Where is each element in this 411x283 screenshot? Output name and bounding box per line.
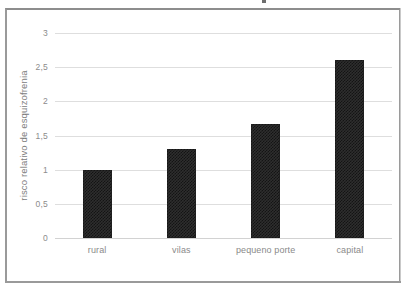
x-axis-category-label: pequeno porte — [236, 245, 295, 255]
y-axis-title-label: risco relativo de esquizofrenia — [18, 70, 29, 200]
x-axis-category-label: vilas — [172, 245, 191, 255]
y-axis-title: risco relativo de esquizofrenia — [16, 50, 30, 220]
gridline: 3 — [55, 33, 392, 34]
y-axis-tick-label: 1,5 — [36, 131, 48, 141]
bar-capital[interactable] — [335, 60, 364, 238]
y-axis-tick-label: 0 — [43, 233, 48, 243]
gridline: 0 — [55, 238, 392, 239]
x-axis-category-label: capital — [337, 245, 364, 255]
bar-pequeno-porte[interactable] — [251, 124, 280, 238]
y-axis-tick-label: 3 — [43, 28, 48, 38]
y-axis-tick-label: 2 — [43, 96, 48, 106]
y-axis-tick-label: 2,5 — [36, 62, 48, 72]
plot-area: 32,521,510,50ruralvilaspequeno portecapi… — [55, 33, 392, 238]
y-axis-tick-label: 1 — [43, 165, 48, 175]
bar-vilas[interactable] — [167, 149, 196, 238]
y-axis-tick-label: 0,5 — [36, 199, 48, 209]
x-axis-category-label: rural — [88, 245, 107, 255]
scan-artifact — [262, 0, 266, 3]
bar-rural[interactable] — [83, 170, 112, 238]
